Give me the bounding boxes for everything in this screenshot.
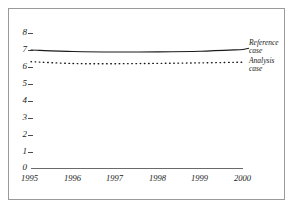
x-tick-label-2000: 2000 — [234, 174, 251, 183]
y-tick-label-7: 7 — [15, 45, 27, 54]
y-tick-label-2: 2 — [15, 130, 27, 139]
y-axis-ticks — [28, 34, 33, 153]
y-tick-label-5: 5 — [15, 79, 27, 88]
y-tick-label-3: 3 — [15, 113, 27, 122]
plot-area: 8 7 6 5 4 3 2 1 0 1995 1996 1997 1998 19… — [0, 0, 293, 216]
x-tick-label-1998: 1998 — [149, 174, 166, 183]
chart-canvas — [0, 0, 293, 216]
y-tick-label-1: 1 — [15, 147, 27, 156]
y-tick-label-6: 6 — [15, 62, 27, 71]
x-tick-label-1996: 1996 — [64, 174, 81, 183]
x-tick-label-1997: 1997 — [106, 174, 123, 183]
y-tick-label-8: 8 — [15, 28, 27, 37]
series-line-reference-case — [31, 50, 243, 53]
figure-container: 8 7 6 5 4 3 2 1 0 1995 1996 1997 1998 19… — [0, 0, 293, 216]
x-tick-label-1999: 1999 — [191, 174, 208, 183]
series-line-analysis-case — [31, 62, 243, 64]
legend-label-analysis-case-line2: case — [249, 65, 262, 73]
legend-label-reference-case-line2: case — [249, 47, 262, 55]
x-tick-label-1995: 1995 — [21, 174, 38, 183]
y-tick-label-4: 4 — [15, 96, 27, 105]
y-tick-label-0: 0 — [15, 163, 27, 172]
